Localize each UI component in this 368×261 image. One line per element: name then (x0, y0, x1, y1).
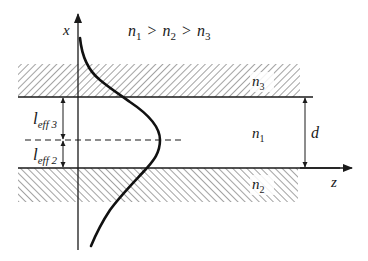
waveguide-diagram: x z n1>n2>n3 n3 n1 n2 d leff 3 leff 2 (0, 0, 368, 261)
z-axis-label: z (330, 174, 337, 190)
index-condition: n1>n2>n3 (128, 22, 211, 42)
thickness-d-label: d (311, 124, 320, 141)
leff3-label: leff 3 (33, 109, 57, 130)
n2-label: n2 (250, 175, 274, 195)
n1-label: n1 (252, 125, 265, 144)
n3-label: n3 (250, 72, 274, 92)
x-axis-label: x (62, 22, 70, 38)
leff2-label: leff 2 (33, 145, 57, 166)
